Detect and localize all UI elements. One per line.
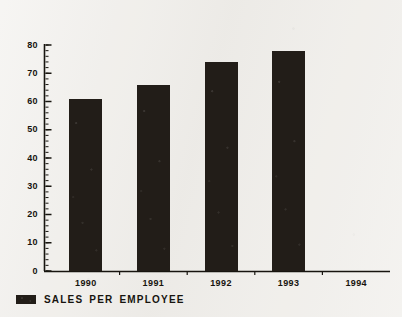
- y-axis-tick-label: 60: [12, 97, 38, 106]
- x-axis-tick-label: 1994: [330, 279, 382, 288]
- chart-plot-area: [0, 0, 402, 317]
- chart-legend: SALES PER EMPLOYEE: [16, 294, 185, 305]
- bar-1993: [272, 51, 305, 271]
- y-axis-tick-label: 0: [12, 267, 38, 276]
- y-axis-tick-label: 40: [12, 154, 38, 163]
- y-axis-tick-label: 80: [12, 41, 38, 50]
- bar-1992: [205, 62, 238, 271]
- y-axis-tick-label: 50: [12, 125, 38, 134]
- x-axis-tick-label: 1991: [127, 279, 179, 288]
- x-axis-tick-label: 1993: [263, 279, 315, 288]
- y-axis-minor-ticks: [46, 45, 49, 271]
- y-axis-tick-label: 30: [12, 182, 38, 191]
- y-axis-tick-label: 10: [12, 238, 38, 247]
- legend-color-swatch: [16, 295, 36, 304]
- chart-page: 01020304050607080 19901991199219931994 S…: [0, 0, 402, 317]
- legend-label: SALES PER EMPLOYEE: [44, 294, 185, 305]
- x-axis-tick-label: 1990: [60, 279, 112, 288]
- bar-1990: [69, 99, 102, 271]
- bar-1991: [137, 85, 170, 271]
- y-axis-tick-label: 70: [12, 69, 38, 78]
- y-axis-tick-label: 20: [12, 210, 38, 219]
- x-axis-tick-label: 1992: [195, 279, 247, 288]
